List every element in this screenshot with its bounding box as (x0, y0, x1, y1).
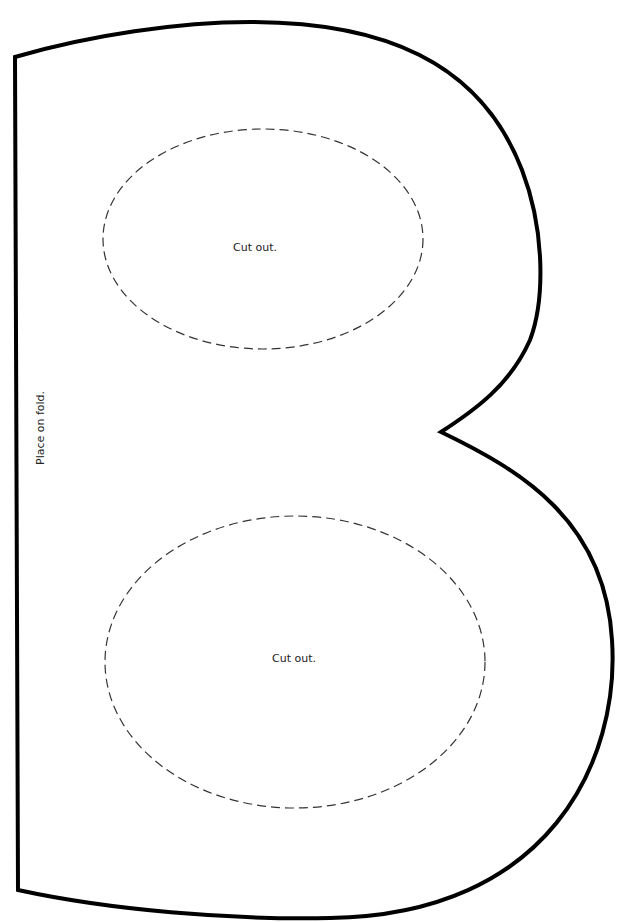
letter-b-template (0, 0, 629, 922)
cutout-bottom-label: Cut out. (272, 652, 316, 665)
fold-label: Place on fold. (34, 391, 47, 465)
letter-b-outline (15, 22, 613, 918)
cutout-top-label: Cut out. (233, 241, 277, 254)
